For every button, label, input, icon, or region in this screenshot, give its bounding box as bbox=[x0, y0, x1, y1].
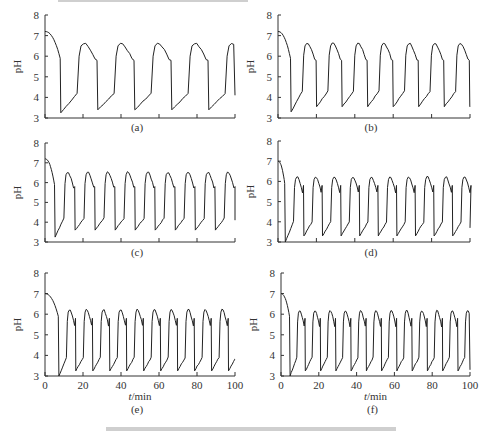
y-tick-label: 3 bbox=[267, 236, 273, 248]
y-tick-label: 8 bbox=[267, 9, 273, 21]
y-tick-label: 5 bbox=[34, 71, 40, 83]
y-tick-label: 8 bbox=[34, 137, 40, 149]
ph-trace-line bbox=[45, 294, 235, 376]
chart-panel-a: 345678pH(a) bbox=[11, 9, 235, 134]
chart-panel-d: 345678pH(d) bbox=[244, 135, 471, 259]
x-tick-label: 100 bbox=[462, 379, 479, 391]
top-caption-fragment bbox=[58, 0, 248, 2]
chart-panel-b: 345678pH(b) bbox=[244, 9, 470, 134]
y-tick-label: 3 bbox=[34, 236, 40, 248]
y-tick-label: 5 bbox=[34, 329, 40, 341]
x-tick-label: 80 bbox=[427, 379, 439, 391]
axes-lines bbox=[45, 15, 235, 118]
y-tick-label: 4 bbox=[34, 216, 40, 228]
y-tick-label: 7 bbox=[34, 157, 40, 169]
y-tick-label: 7 bbox=[34, 30, 40, 42]
ph-trace-line bbox=[45, 32, 235, 113]
chart-panel-e: 345678020406080100t/minpH(e) bbox=[11, 267, 244, 416]
y-tick-label: 7 bbox=[267, 30, 273, 42]
x-tick-label: 100 bbox=[227, 379, 244, 391]
y-tick-label: 6 bbox=[267, 50, 273, 62]
y-tick-label: 8 bbox=[34, 9, 40, 21]
chart-panel-f: 345678020406080100t/minpH(f) bbox=[247, 267, 479, 416]
axes-lines bbox=[45, 273, 235, 376]
y-tick-label: 4 bbox=[34, 349, 40, 361]
x-tick-label: 60 bbox=[389, 379, 401, 391]
y-tick-label: 3 bbox=[267, 112, 273, 124]
ph-trace-line bbox=[45, 159, 235, 237]
y-tick-label: 3 bbox=[270, 370, 276, 382]
panel-label: (a) bbox=[131, 121, 144, 134]
y-tick-label: 4 bbox=[34, 91, 40, 103]
y-tick-label: 6 bbox=[267, 175, 273, 187]
y-tick-label: 5 bbox=[267, 71, 273, 83]
y-tick-label: 8 bbox=[270, 267, 276, 279]
x-axis-title: t/min bbox=[128, 390, 152, 402]
axes-lines bbox=[45, 143, 235, 242]
y-tick-label: 5 bbox=[267, 196, 273, 208]
y-tick-label: 7 bbox=[34, 288, 40, 300]
panel-label: (c) bbox=[131, 246, 144, 259]
panel-label: (e) bbox=[131, 403, 144, 416]
figure-canvas: 345678pH(a)345678pH(b)345678pH(c)345678p… bbox=[0, 0, 490, 434]
y-tick-label: 6 bbox=[34, 50, 40, 62]
y-tick-label: 6 bbox=[34, 308, 40, 320]
y-axis-title: pH bbox=[11, 186, 23, 200]
y-tick-label: 4 bbox=[270, 349, 276, 361]
y-tick-label: 4 bbox=[267, 91, 273, 103]
x-tick-label: 20 bbox=[313, 379, 325, 391]
x-tick-label: 0 bbox=[278, 379, 284, 391]
y-tick-label: 8 bbox=[34, 267, 40, 279]
x-tick-label: 40 bbox=[116, 379, 128, 391]
y-tick-label: 3 bbox=[34, 112, 40, 124]
y-axis-title: pH bbox=[11, 60, 23, 74]
y-tick-label: 3 bbox=[34, 370, 40, 382]
panels-group: 345678pH(a)345678pH(b)345678pH(c)345678p… bbox=[11, 9, 479, 416]
x-axis-title: t/min bbox=[364, 390, 388, 402]
y-tick-label: 4 bbox=[267, 216, 273, 228]
y-axis-title: pH bbox=[247, 318, 259, 332]
bottom-caption-fragment bbox=[106, 427, 396, 431]
ph-trace-line bbox=[281, 294, 470, 376]
y-axis-title: pH bbox=[244, 60, 256, 74]
x-tick-label: 20 bbox=[78, 379, 90, 391]
x-tick-label: 60 bbox=[154, 379, 166, 391]
axes-lines bbox=[278, 141, 470, 242]
y-axis-title: pH bbox=[11, 318, 23, 332]
y-axis-title: pH bbox=[244, 185, 256, 199]
y-tick-label: 5 bbox=[270, 329, 276, 341]
x-tick-label: 40 bbox=[351, 379, 363, 391]
y-tick-label: 5 bbox=[34, 196, 40, 208]
ph-trace-line bbox=[278, 161, 471, 242]
y-tick-label: 8 bbox=[267, 135, 273, 147]
y-tick-label: 6 bbox=[270, 308, 276, 320]
panel-label: (b) bbox=[365, 121, 378, 134]
panel-label: (d) bbox=[365, 246, 378, 259]
panel-label: (f) bbox=[367, 403, 378, 416]
y-tick-label: 6 bbox=[34, 177, 40, 189]
x-tick-label: 0 bbox=[42, 379, 48, 391]
x-tick-label: 80 bbox=[192, 379, 204, 391]
y-tick-label: 7 bbox=[267, 155, 273, 167]
axes-lines bbox=[278, 15, 470, 118]
chart-panel-c: 345678pH(c) bbox=[11, 137, 235, 259]
y-tick-label: 7 bbox=[270, 288, 276, 300]
ph-trace-line bbox=[278, 32, 470, 112]
